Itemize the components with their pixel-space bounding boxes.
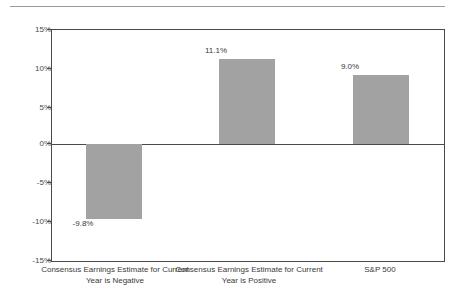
chart-figure: 15% 10% 5% 0% -5% -10% -15% -9.8% 11.1% … <box>0 0 464 299</box>
bar-value-consensus-positive: 11.1% <box>188 46 244 55</box>
y-tick-label-0: 0% <box>11 140 51 148</box>
x-category-label-line2: Year is Positive <box>152 276 346 287</box>
x-category-label-sp500: S&P 500 <box>283 265 464 276</box>
bar-sp500[interactable] <box>353 75 409 144</box>
y-tick-label-neg5: -5% <box>11 179 51 187</box>
y-tick-label-neg15: -15% <box>11 257 51 265</box>
bar-consensus-negative[interactable] <box>86 144 142 219</box>
x-category-label-line1: S&P 500 <box>364 265 395 274</box>
top-divider-rule <box>10 6 445 7</box>
y-tick-label-5: 5% <box>11 104 51 112</box>
y-tick-label-10: 10% <box>11 65 51 73</box>
bar-value-sp500: 9.0% <box>322 62 378 71</box>
bar-value-consensus-negative: -9.8% <box>55 219 111 228</box>
bar-consensus-positive[interactable] <box>219 59 275 144</box>
y-tick-label-15: 15% <box>11 26 51 34</box>
y-tick-label-neg10: -10% <box>11 218 51 226</box>
y-axis: 15% 10% 5% 0% -5% -10% -15% <box>0 0 51 299</box>
